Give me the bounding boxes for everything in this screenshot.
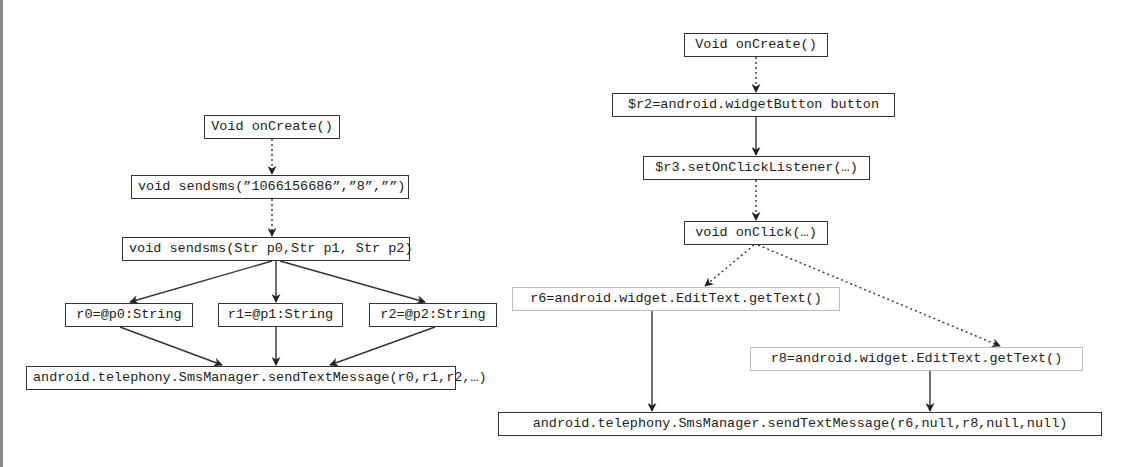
edge-l-def-r2 (280, 261, 425, 302)
edge-l-r2-send (330, 327, 435, 365)
node-right-r6-gettext: r6=android.widget.EditText.getText() (512, 287, 840, 311)
node-left-sendsms-call: void sendsms(”1066156686”,”8”,””) (131, 175, 409, 199)
node-right-set-listener: $r3.setOnClickListener(…) (643, 156, 870, 180)
edge-l-def-r0 (130, 261, 272, 302)
node-left-sendsms-def: void sendsms(Str p0,Str p1, Str p2) (122, 237, 410, 261)
node-left-r1: r1=@p1:String (218, 303, 343, 327)
node-left-r2: r2=@p2:String (369, 303, 497, 327)
edge-l-r0-send (120, 327, 222, 365)
node-left-send-text-message: android.telephony.SmsManager.sendTextMes… (26, 366, 456, 390)
node-right-r8-gettext: r8=android.widget.EditText.getText() (750, 347, 1083, 371)
diagram-edges (0, 0, 1123, 467)
node-left-oncreate: Void onCreate() (204, 115, 340, 139)
node-right-oncreate: Void onCreate() (684, 33, 828, 57)
node-right-button: $r2=android.widgetButton button (612, 93, 895, 117)
node-right-onclick: void onClick(…) (684, 221, 828, 245)
node-right-send-text-message: android.telephony.SmsManager.sendTextMes… (498, 412, 1102, 436)
edge-r-onclick-r6 (705, 245, 754, 286)
node-left-r0: r0=@p0:String (65, 303, 193, 327)
